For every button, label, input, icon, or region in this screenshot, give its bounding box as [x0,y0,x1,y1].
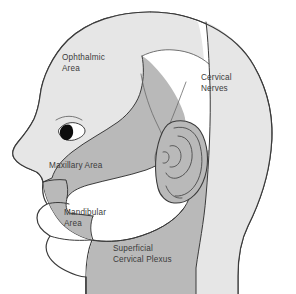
label-maxillary-area-line1: Maxillary Area [49,161,103,170]
label-cervical-nerves-line2: Nerves [201,84,228,93]
label-mandibular-area-line1: Mandibular [64,208,106,217]
label-mandibular-area-line2: Area [64,219,82,228]
label-cervical-nerves-line1: Cervical [201,73,232,82]
label-ophthalmic-area-line1: Ophthalmic [62,53,105,62]
label-maxillary-area: Maxillary Area [49,161,103,170]
head-lateral-diagram-svg: Ophthalmic Area Cervical Nerves Maxillar… [0,0,296,294]
label-ophthalmic-area-line2: Area [62,64,80,73]
anatomical-diagram-figure: Ophthalmic Area Cervical Nerves Maxillar… [0,0,296,294]
label-superficial-cervical-plexus-line2: Cervical Plexus [113,255,172,264]
label-superficial-cervical-plexus-line1: Superficial [113,244,153,253]
